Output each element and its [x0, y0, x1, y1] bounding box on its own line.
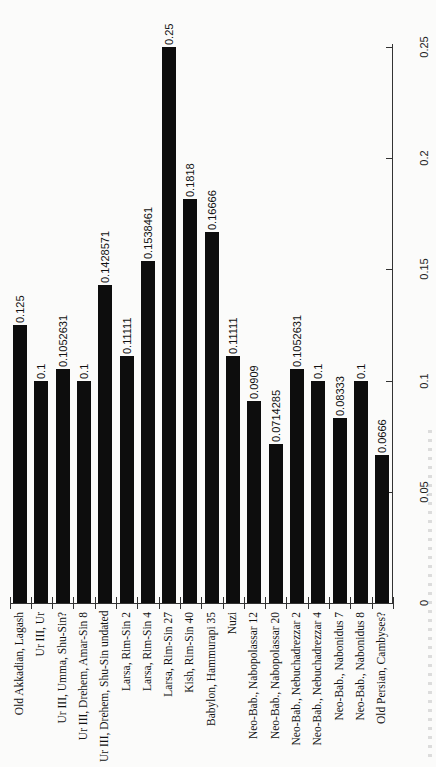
category-label: Neo-Bab., Nabonidus 7	[333, 612, 346, 762]
bar	[162, 47, 176, 603]
category-axis-tick	[372, 597, 373, 609]
value-axis-tick-label: 0.15	[418, 249, 430, 289]
value-axis-tick	[386, 603, 393, 604]
category-label: Old Persian, Cambyses?	[375, 612, 388, 762]
category-axis-tick	[159, 597, 160, 609]
bar	[333, 418, 347, 603]
bar	[375, 455, 389, 603]
bar-value-label: 0.11111	[227, 318, 239, 355]
bar-value-label: 0.1052631	[57, 315, 69, 367]
category-label: Neo-Bab., Nebuchadrezzar 4	[311, 612, 324, 762]
category-label: Neo-Bab., Nabopolassar 20	[269, 612, 282, 762]
category-label: Neo-Bab., Nabonidus 8	[354, 612, 367, 762]
value-axis-line	[392, 44, 393, 604]
category-label: Babylon, Hammurapi 35	[205, 612, 218, 762]
value-axis-tick-label: 0	[418, 583, 430, 623]
bar	[247, 401, 261, 603]
bar-chart: 00.050.10.150.20.250.125Old Akkadian, La…	[0, 0, 436, 767]
bar	[269, 444, 283, 603]
bar-value-label: 0.16666	[206, 190, 218, 230]
bar-value-label: 0.1	[35, 364, 47, 379]
bar-value-label: 0.1	[312, 364, 324, 379]
category-axis-tick	[52, 597, 53, 609]
bar-value-label: 0.25	[163, 24, 175, 45]
bar	[311, 381, 325, 603]
category-label: Ur III, Umma, Shu-Sin?	[56, 612, 69, 762]
category-label: Larsa, Rim-Sin 27	[162, 612, 175, 762]
bar	[120, 356, 134, 603]
value-axis-tick-label: 0.05	[418, 472, 430, 512]
category-axis-tick	[286, 597, 287, 609]
value-axis-tick	[386, 47, 393, 48]
category-axis-tick	[73, 597, 74, 609]
bar	[34, 381, 48, 603]
bar-value-label: 0.0909	[248, 365, 260, 399]
bar-value-label: 0.1052631	[291, 315, 303, 367]
bar	[77, 381, 91, 603]
category-label: Old Akkadian, Lagash	[13, 612, 26, 762]
category-axis-tick	[31, 597, 32, 609]
category-axis-tick	[95, 597, 96, 609]
category-axis-tick	[244, 597, 245, 609]
category-label: Nuzi	[226, 612, 239, 762]
bar	[354, 381, 368, 603]
category-axis-tick	[308, 597, 309, 609]
bar-value-label: 0.1428571	[99, 231, 111, 283]
bar-value-label: 0.0714285	[270, 390, 282, 442]
category-axis-tick	[180, 597, 181, 609]
category-axis-tick	[201, 597, 202, 609]
bar	[141, 261, 155, 603]
category-label: Kish, Rim-Sin 40	[183, 612, 196, 762]
bar-value-label: 0.125	[14, 295, 26, 323]
category-label: Larsa, Rim-Sin 4	[141, 612, 154, 762]
value-axis-tick-label: 0.2	[418, 138, 430, 178]
category-label: Neo-Bab., Nabopolassar 12	[247, 612, 260, 762]
bar	[226, 356, 240, 603]
bar-value-label: 0.1	[355, 364, 367, 379]
bar	[13, 325, 27, 603]
bar	[56, 369, 70, 603]
category-label: Ur III, Ur	[34, 612, 47, 762]
bar-value-label: 0.08333	[334, 376, 346, 416]
category-axis-tick	[265, 597, 266, 609]
value-axis-tick-label: 0.1	[418, 361, 430, 401]
category-label: Neo-Bab., Nebuchadrezzar 2	[290, 612, 303, 762]
category-label: Ur III, Drehem, Shu-Sin undated	[98, 612, 111, 762]
value-axis-tick	[386, 269, 393, 270]
category-axis-tick	[223, 597, 224, 609]
category-label: Ur III, Drehem, Amar-Sin 8	[77, 612, 90, 762]
category-axis-tick	[393, 597, 394, 609]
bar	[290, 369, 304, 603]
bar-value-label: 0.0666	[376, 419, 388, 453]
bar-value-label: 0.1	[78, 364, 90, 379]
bar	[205, 232, 219, 603]
category-label: Larsa, Rim-Sin 2	[120, 612, 133, 762]
category-axis-tick	[329, 597, 330, 609]
value-axis-tick-label: 0.25	[418, 27, 430, 67]
category-axis-tick	[350, 597, 351, 609]
category-axis-tick	[10, 597, 11, 609]
value-axis-tick	[386, 381, 393, 382]
bar	[98, 285, 112, 603]
category-axis-tick	[116, 597, 117, 609]
category-axis-tick	[137, 597, 138, 609]
value-axis-tick	[386, 158, 393, 159]
bar-value-label: 0.11111	[121, 318, 133, 355]
bar-value-label: 0.1818	[184, 163, 196, 197]
bar-value-label: 0.1538461	[142, 207, 154, 259]
bar	[183, 199, 197, 603]
